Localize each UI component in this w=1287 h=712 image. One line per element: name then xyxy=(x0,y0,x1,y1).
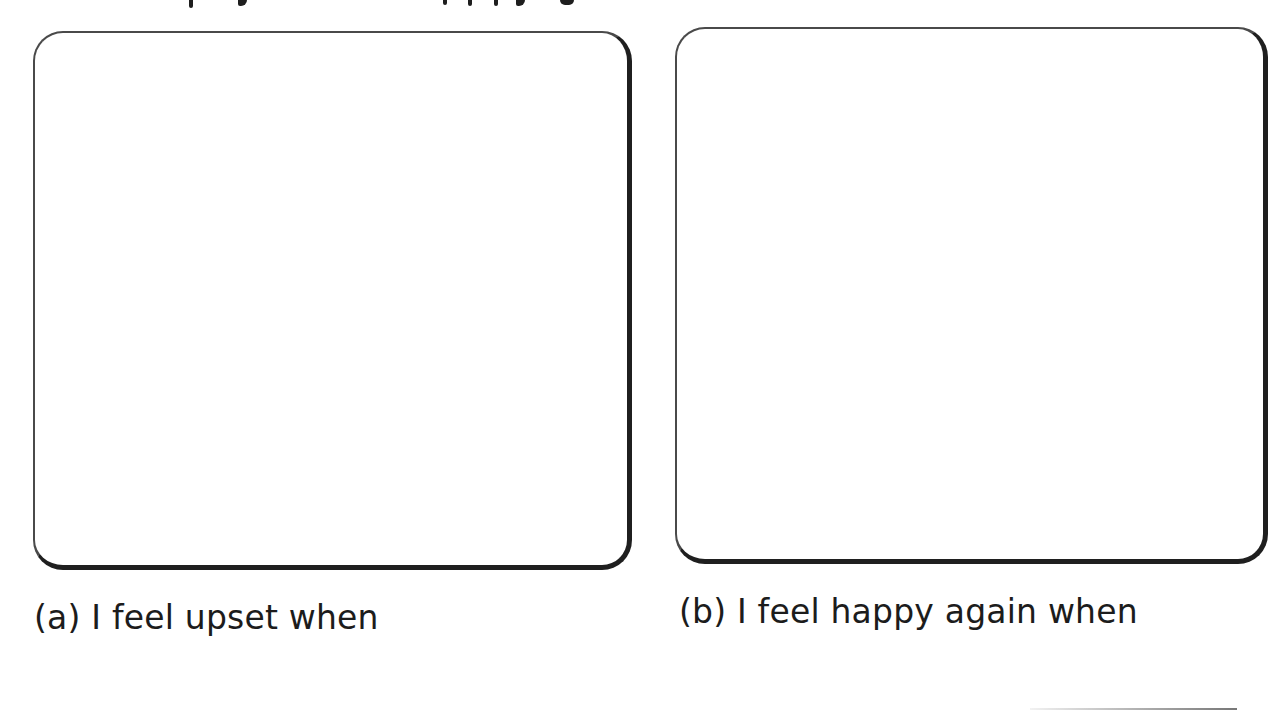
cropped-heading-fragments xyxy=(0,0,1287,12)
answer-line xyxy=(1030,708,1237,710)
glyph-descender xyxy=(560,0,574,5)
glyph-descender xyxy=(443,0,447,5)
glyph-descender xyxy=(516,0,525,6)
drawing-box-upset[interactable] xyxy=(33,31,632,570)
drawing-box-happy-again[interactable] xyxy=(675,27,1268,564)
glyph-descender xyxy=(468,0,472,6)
prompt-happy-again-label: (b) I feel happy again when xyxy=(679,592,1138,632)
prompt-upset-label: (a) I feel upset when xyxy=(34,598,379,638)
glyph-descender xyxy=(238,0,247,6)
glyph-descender xyxy=(494,0,498,6)
glyph-descender xyxy=(189,0,193,8)
